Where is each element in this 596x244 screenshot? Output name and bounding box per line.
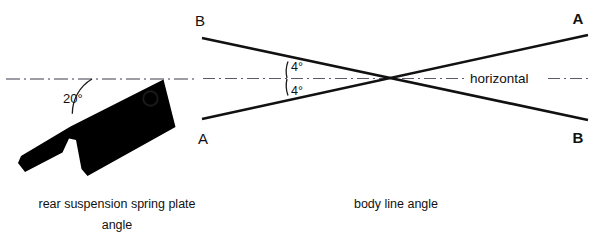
- technical-diagram-figure: 20° rear suspension spring plate angle 4…: [0, 0, 596, 244]
- right-caption: body line angle: [354, 197, 438, 211]
- left-diagram-group: 20° rear suspension spring plate angle: [6, 79, 196, 232]
- horizontal-label: horizontal: [470, 71, 529, 86]
- angle-label-20: 20°: [63, 91, 83, 106]
- spring-plate-outline: [18, 80, 176, 177]
- angle-arc-4-lower: [286, 79, 288, 96]
- angle-label-4-upper: 4°: [291, 60, 303, 74]
- corner-label-top-right: A: [573, 10, 584, 27]
- corner-label-top-left: B: [195, 12, 205, 29]
- diagram-canvas: 20° rear suspension spring plate angle 4…: [0, 0, 596, 244]
- right-diagram-group: 4° 4° horizontal B A A B body line angle: [195, 10, 590, 211]
- left-caption-line2: angle: [102, 218, 133, 232]
- left-caption-line1: rear suspension spring plate: [38, 197, 195, 211]
- corner-label-bottom-left: A: [198, 130, 208, 147]
- angle-arc-4-upper: [286, 62, 288, 79]
- angle-label-4-lower: 4°: [291, 84, 303, 98]
- corner-label-bottom-right: B: [573, 129, 584, 146]
